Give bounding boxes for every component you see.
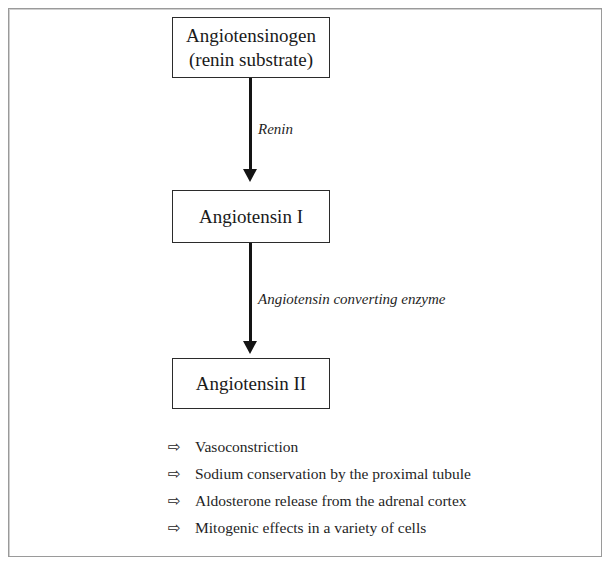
right-arrow-bullet-icon: ⇨ — [168, 440, 195, 455]
list-item: ⇨ Aldosterone release from the adrenal c… — [168, 492, 548, 519]
right-arrow-bullet-icon: ⇨ — [168, 521, 195, 536]
arrow-2-label: Angiotensin converting enzyme — [258, 291, 445, 308]
node-angiotensinogen-line-1: Angiotensinogen — [186, 24, 316, 47]
arrow-2-shaft — [249, 243, 252, 343]
arrow-1-label: Renin — [258, 121, 293, 138]
arrow-2-head-icon — [243, 341, 257, 354]
list-item: ⇨ Mitogenic effects in a variety of cell… — [168, 519, 548, 546]
list-item: ⇨ Sodium conservation by the proximal tu… — [168, 465, 548, 492]
node-angiotensin-ii-line-1: Angiotensin II — [196, 372, 306, 395]
node-angiotensin-i: Angiotensin I — [172, 190, 330, 243]
right-arrow-bullet-icon: ⇨ — [168, 494, 195, 509]
node-angiotensin-ii: Angiotensin II — [172, 358, 330, 409]
arrow-1-shaft — [249, 78, 252, 171]
list-item: ⇨ Vasoconstriction — [168, 438, 548, 465]
effect-label: Aldosterone release from the adrenal cor… — [195, 492, 467, 510]
right-arrow-bullet-icon: ⇨ — [168, 467, 195, 482]
arrow-1-head-icon — [243, 169, 257, 182]
diagram-page: Angiotensinogen (renin substrate) Renin … — [0, 0, 611, 571]
node-angiotensinogen: Angiotensinogen (renin substrate) — [172, 17, 330, 78]
effect-label: Vasoconstriction — [195, 438, 298, 456]
node-angiotensin-i-line-1: Angiotensin I — [199, 205, 303, 228]
effect-label: Mitogenic effects in a variety of cells — [195, 519, 426, 537]
effect-label: Sodium conservation by the proximal tubu… — [195, 465, 471, 483]
node-angiotensinogen-line-2: (renin substrate) — [189, 48, 313, 71]
effects-list: ⇨ Vasoconstriction ⇨ Sodium conservation… — [168, 438, 548, 546]
